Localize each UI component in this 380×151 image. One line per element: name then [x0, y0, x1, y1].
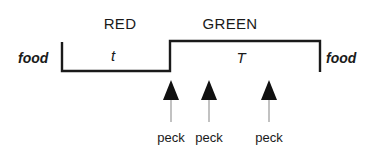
diagram-canvas — [0, 0, 380, 151]
peck-arrow-icon-3 — [261, 80, 277, 100]
duration-symbol-t: t — [111, 48, 115, 63]
peck-marker-1 — [163, 80, 179, 122]
peck-schedule-diagram: RED GREEN t T food food peck peck peck — [0, 0, 380, 151]
peck-label-2: peck — [195, 131, 222, 144]
phase-label-red: RED — [104, 16, 137, 31]
duration-symbol-T: T — [236, 50, 245, 65]
peck-marker-2 — [201, 80, 217, 122]
peck-arrow-icon-1 — [163, 80, 179, 100]
stimulus-step-trace — [62, 41, 320, 72]
phase-label-green: GREEN — [203, 16, 258, 31]
peck-marker-3 — [261, 80, 277, 122]
food-label-left: food — [18, 51, 48, 65]
peck-arrow-icon-2 — [201, 80, 217, 100]
peck-label-3: peck — [255, 131, 282, 144]
peck-label-1: peck — [157, 131, 184, 144]
food-label-right: food — [326, 51, 356, 65]
